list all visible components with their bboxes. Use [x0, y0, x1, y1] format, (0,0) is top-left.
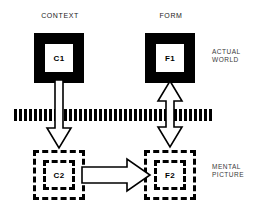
- diagram-canvas: CONTEXT FORM ACTUAL WORLD MENTAL PICTURE…: [0, 0, 257, 211]
- node-c2: C2: [33, 150, 85, 200]
- tier-label-actual-world: ACTUAL WORLD: [212, 48, 241, 64]
- node-f2-label: F2: [154, 160, 186, 190]
- arrow-c1-to-c2: [46, 80, 72, 150]
- node-c1-label: C1: [45, 44, 73, 72]
- node-c2-label: C2: [43, 160, 75, 190]
- arrow-c2-to-f2: [82, 158, 152, 192]
- node-c1: C1: [34, 33, 84, 83]
- arrow-f1-to-f2: [157, 80, 183, 150]
- column-label-context: CONTEXT: [34, 12, 86, 19]
- perception-barrier: [14, 109, 216, 121]
- column-label-form: FORM: [145, 12, 197, 19]
- node-f1-label: F1: [156, 44, 184, 72]
- tier-label-mental-picture: MENTAL PICTURE: [212, 163, 244, 179]
- node-f1: F1: [145, 33, 195, 83]
